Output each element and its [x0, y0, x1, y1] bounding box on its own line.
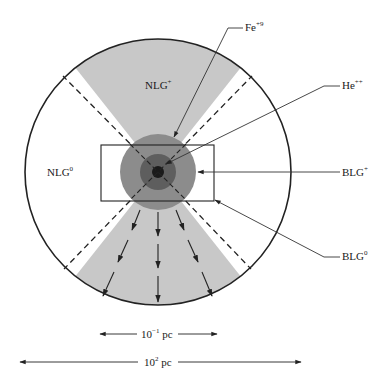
agn-diagram: NLG+ NLG0 Fe+9 He++ BLG+ BLG0 10−1 pc 10…: [0, 0, 380, 388]
scale-outer-label: 102 pc: [144, 355, 172, 368]
label-blg-plus: BLG+: [342, 165, 368, 178]
scale-inner-label: 10−1 pc: [141, 327, 173, 340]
label-nlg-zero: NLG0: [47, 165, 74, 178]
label-fe-plus9: Fe+9: [245, 20, 264, 33]
label-blg-zero: BLG0: [342, 249, 368, 262]
label-he-plusplus: He++: [342, 78, 363, 91]
